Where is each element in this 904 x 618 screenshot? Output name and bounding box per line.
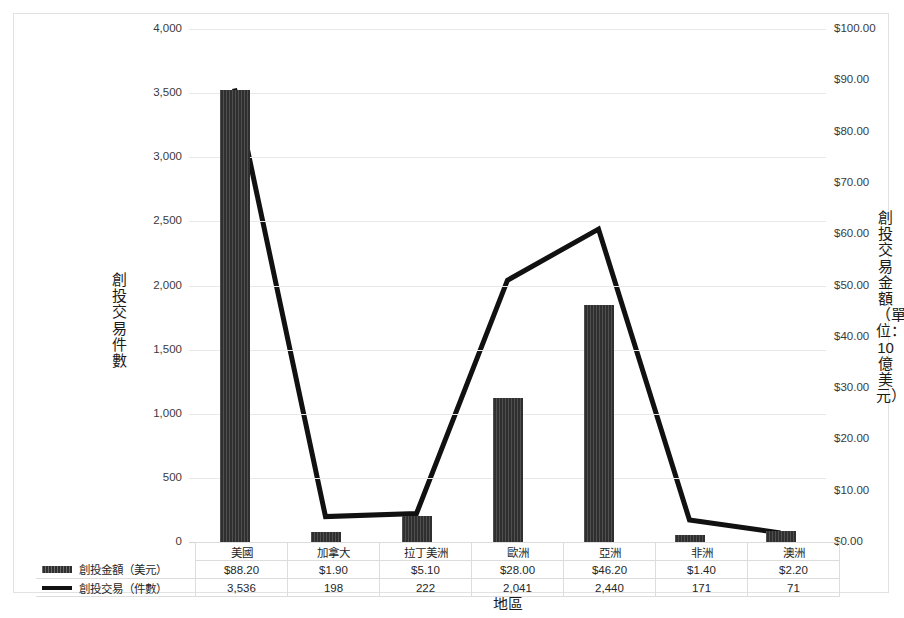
legend-bar-swatch-icon	[42, 566, 72, 573]
table-cell: $1.90	[288, 561, 380, 579]
legend-label: 創投金額（美元）	[79, 564, 167, 576]
plot-area	[189, 29, 826, 542]
legend-line-swatch-icon	[42, 586, 72, 590]
table-corner-cell	[36, 543, 196, 561]
table-cell: 198	[288, 579, 380, 597]
y-axis-right-tick-label: $10.00	[834, 485, 869, 497]
bar-亞洲	[584, 305, 614, 542]
table-cell: 3,536	[196, 579, 288, 597]
table-cell: 171	[656, 579, 748, 597]
y-axis-right-tick-label: $40.00	[834, 331, 869, 343]
y-axis-right-tick-label: $90.00	[834, 74, 869, 86]
y-axis-right-tick-label: $70.00	[834, 177, 869, 189]
table-cell: 2,041	[472, 579, 564, 597]
y-axis-left-tick-label: 1,000	[134, 408, 182, 420]
y-axis-right-tick-label: $50.00	[834, 280, 869, 292]
gridline	[189, 93, 826, 94]
gridline	[189, 221, 826, 222]
y-axis-right-tick-label: $20.00	[834, 433, 869, 445]
y-axis-left-tick-label: 3,500	[134, 87, 182, 99]
y-axis-left-tick-label: 4,000	[134, 23, 182, 35]
table-column-header: 澳洲	[748, 543, 840, 561]
table-column-header: 歐洲	[472, 543, 564, 561]
table-cell: $2.20	[748, 561, 840, 579]
table-column-header: 美國	[196, 543, 288, 561]
legend-label: 創投交易（件數）	[79, 583, 167, 595]
table-row: 創投金額（美元）$88.20$1.90$5.10$28.00$46.20$1.4…	[36, 561, 840, 579]
table-cell: $28.00	[472, 561, 564, 579]
y-axis-left-tick-label: 2,000	[134, 280, 182, 292]
table-cell: $46.20	[564, 561, 656, 579]
table-column-header: 非洲	[656, 543, 748, 561]
legend-entry[interactable]: 創投金額（美元）	[36, 561, 196, 579]
y-axis-right-tick-label: $80.00	[834, 126, 869, 138]
table-column-header: 亞洲	[564, 543, 656, 561]
y-axis-left-tick-label: 2,500	[134, 215, 182, 227]
y-axis-right-title: 創投交易金額（單位：10億美元）	[876, 210, 895, 404]
y-axis-right-tick-label: $100.00	[834, 23, 876, 35]
y-axis-right-tick-label: $60.00	[834, 228, 869, 240]
y-axis-left-tick-label: 3,000	[134, 151, 182, 163]
data-table: 美國加拿大拉丁美洲歐洲亞洲非洲澳洲創投金額（美元）$88.20$1.90$5.1…	[36, 542, 840, 597]
gridline	[189, 286, 826, 287]
bar-歐洲	[493, 398, 523, 542]
y-axis-left-tick-label: 500	[134, 472, 182, 484]
bar-拉丁美洲	[402, 516, 432, 542]
table-cell: 71	[748, 579, 840, 597]
table-cell: $5.10	[380, 561, 472, 579]
bar-澳洲	[766, 531, 796, 542]
table-column-header: 拉丁美洲	[380, 543, 472, 561]
table-header-row: 美國加拿大拉丁美洲歐洲亞洲非洲澳洲	[36, 543, 840, 561]
y-axis-left-ticks: 05001,0001,5002,0002,5003,0003,5004,000	[134, 29, 182, 542]
legend-entry[interactable]: 創投交易（件數）	[36, 579, 196, 597]
y-axis-left-title: 創投交易件數	[109, 272, 129, 369]
table-cell: $1.40	[656, 561, 748, 579]
table-column-header: 加拿大	[288, 543, 380, 561]
y-axis-right-tick-label: $30.00	[834, 382, 869, 394]
gridline	[189, 157, 826, 158]
table-row: 創投交易（件數）3,5361982222,0412,44017171	[36, 579, 840, 597]
gridline	[189, 29, 826, 30]
bar-非洲	[675, 535, 705, 542]
bar-加拿大	[311, 532, 341, 542]
table-cell: 2,440	[564, 579, 656, 597]
bar-美國	[220, 90, 250, 542]
chart-frame: 05001,0001,5002,0002,5003,0003,5004,000 …	[13, 13, 889, 593]
table-cell: 222	[380, 579, 472, 597]
gridline	[189, 350, 826, 351]
table-cell: $88.20	[196, 561, 288, 579]
y-axis-left-tick-label: 1,500	[134, 344, 182, 356]
